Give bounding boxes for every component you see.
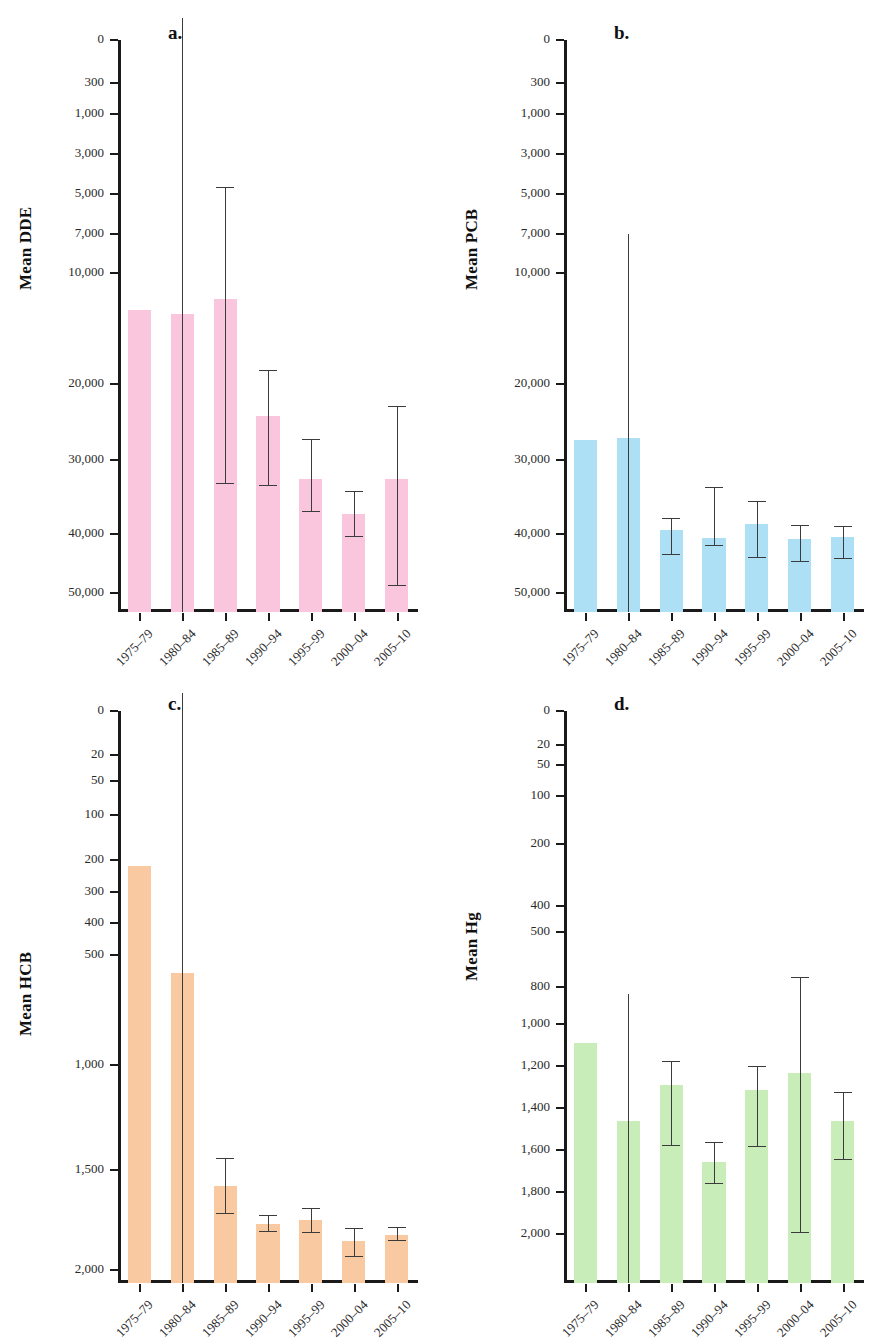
- y-tick-label: 50: [460, 756, 550, 772]
- error-bar-cap-lower: [705, 1183, 723, 1184]
- y-tick-mark: [556, 233, 564, 235]
- x-tick-label: 1975–79: [99, 1297, 157, 1341]
- x-tick-mark: [311, 613, 313, 621]
- y-tick-mark: [556, 710, 564, 712]
- y-tick-label: 800: [460, 978, 550, 994]
- y-tick-mark: [110, 459, 118, 461]
- panel-b: b.Mean PCB03001,0003,0005,0007,00010,000…: [446, 0, 891, 670]
- y-tick-mark: [110, 153, 118, 155]
- y-tick-label: 0: [460, 31, 550, 47]
- y-tick-label: 3,000: [14, 145, 104, 161]
- error-bar-cap-upper: [748, 1066, 766, 1067]
- y-tick-mark: [110, 1064, 118, 1066]
- y-tick-mark: [556, 113, 564, 115]
- error-bar-cap-lower: [662, 1145, 680, 1146]
- error-bar-cap-lower: [748, 557, 766, 558]
- x-tick-mark: [628, 1284, 630, 1292]
- y-tick-mark: [556, 459, 564, 461]
- error-bar-cap-upper: [748, 501, 766, 502]
- y-tick-label: 20: [14, 746, 104, 762]
- error-bar-line: [671, 1062, 672, 1146]
- y-tick-label: 50,000: [460, 584, 550, 600]
- y-tick-mark: [110, 82, 118, 84]
- y-tick-mark: [556, 744, 564, 746]
- error-bar-line: [182, 18, 183, 612]
- bar: [385, 1235, 408, 1283]
- x-tick-mark: [225, 1284, 227, 1292]
- error-bar-cap-upper: [791, 977, 809, 978]
- y-tick-label: 400: [460, 897, 550, 913]
- y-tick-label: 2,000: [460, 1225, 550, 1241]
- y-tick-label: 200: [14, 851, 104, 867]
- panel-d: d.Mean Hg020501002004005008001,0001,2001…: [446, 671, 891, 1341]
- error-bar-cap-upper: [662, 1061, 680, 1062]
- bar: [574, 1043, 597, 1283]
- error-bar-line: [225, 1159, 226, 1215]
- y-tick-mark: [110, 272, 118, 274]
- x-tick-mark: [182, 613, 184, 621]
- error-bar-line: [714, 1143, 715, 1184]
- y-tick-label: 2,000: [14, 1261, 104, 1277]
- x-tick-mark: [714, 1284, 716, 1292]
- error-bar-line: [311, 440, 312, 512]
- y-tick-label: 300: [14, 74, 104, 90]
- y-tick-mark: [556, 1065, 564, 1067]
- y-tick-mark: [556, 383, 564, 385]
- y-tick-mark: [556, 1233, 564, 1235]
- y-tick-mark: [110, 1269, 118, 1271]
- y-tick-label: 20,000: [14, 375, 104, 391]
- error-bar-cap-lower: [259, 485, 277, 486]
- error-bar-line: [182, 693, 183, 1283]
- x-tick-mark: [585, 613, 587, 621]
- x-tick-mark: [671, 613, 673, 621]
- x-tick-mark: [800, 613, 802, 621]
- y-tick-label: 1,500: [14, 1161, 104, 1177]
- error-bar-cap-upper: [834, 526, 852, 527]
- error-bar-line: [354, 1229, 355, 1256]
- error-bar-cap-lower: [388, 585, 406, 586]
- y-tick-label: 20,000: [460, 375, 550, 391]
- y-tick-mark: [556, 1191, 564, 1193]
- y-tick-label: 0: [460, 702, 550, 718]
- x-tick-mark: [671, 1284, 673, 1292]
- bar: [128, 866, 151, 1283]
- y-tick-mark: [556, 82, 564, 84]
- error-bar-line: [628, 994, 629, 1283]
- y-tick-mark: [556, 764, 564, 766]
- x-tick-mark: [800, 1284, 802, 1292]
- y-tick-label: 30,000: [460, 451, 550, 467]
- error-bar-line: [268, 371, 269, 486]
- y-tick-mark: [110, 922, 118, 924]
- y-tick-label: 20: [460, 736, 550, 752]
- error-bar-cap-lower: [791, 1232, 809, 1233]
- y-tick-label: 1,000: [460, 1015, 550, 1031]
- y-tick-mark: [556, 193, 564, 195]
- x-tick-mark: [843, 1284, 845, 1292]
- x-tick-mark: [714, 613, 716, 621]
- y-tick-mark: [556, 795, 564, 797]
- y-tick-mark: [110, 233, 118, 235]
- y-tick-mark: [110, 39, 118, 41]
- y-tick-label: 300: [460, 74, 550, 90]
- y-tick-label: 100: [14, 806, 104, 822]
- figure-four-panel-bar-charts: a.Mean DDE03001,0003,0005,0007,00010,000…: [0, 0, 891, 1341]
- y-axis-line: [118, 711, 121, 1283]
- y-tick-label: 50,000: [14, 584, 104, 600]
- error-bar-line: [800, 526, 801, 563]
- error-bar-cap-upper: [834, 1092, 852, 1093]
- y-tick-label: 100: [460, 787, 550, 803]
- error-bar-cap-upper: [216, 187, 234, 188]
- error-bar-cap-lower: [345, 1256, 363, 1257]
- error-bar-cap-lower: [834, 1159, 852, 1160]
- y-axis-line: [564, 711, 567, 1283]
- x-tick-mark: [397, 613, 399, 621]
- y-tick-label: 40,000: [14, 525, 104, 541]
- y-axis-line: [118, 40, 121, 612]
- error-bar-line: [843, 1093, 844, 1160]
- panel-c: c.Mean HCB020501002003004005001,0001,500…: [0, 671, 445, 1341]
- x-tick-mark: [182, 1284, 184, 1292]
- y-tick-label: 40,000: [460, 525, 550, 541]
- y-tick-mark: [556, 272, 564, 274]
- error-bar-cap-upper: [791, 525, 809, 526]
- y-tick-mark: [556, 843, 564, 845]
